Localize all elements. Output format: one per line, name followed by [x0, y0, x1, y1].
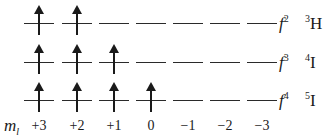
- orbital-line: [210, 62, 240, 63]
- ml-axis-label: ml: [4, 116, 19, 137]
- orbital-box: [247, 40, 277, 80]
- ml-value: −2: [210, 118, 240, 134]
- spin-up-arrow-icon: [149, 82, 153, 112]
- ml-axis: ml +3+2+10−1−2−3: [0, 116, 331, 138]
- config-label: f3: [279, 52, 289, 73]
- spin-up-arrow-icon: [37, 82, 41, 112]
- spin-up-arrow-icon: [75, 5, 79, 35]
- orbital-box: [210, 40, 240, 80]
- orbital-box: [136, 40, 166, 80]
- ml-value: +1: [99, 118, 129, 134]
- orbital-box: [247, 78, 277, 118]
- spin-up-arrow-icon: [112, 82, 116, 112]
- orbital-box: [99, 1, 129, 41]
- orbital-line: [210, 100, 240, 101]
- config-label: f4: [279, 90, 289, 111]
- row-f2: f2 3H: [0, 1, 331, 41]
- row-f3: f3 4I: [0, 40, 331, 80]
- ml-value: −1: [173, 118, 203, 134]
- orbital-box: [210, 78, 240, 118]
- spin-up-arrow-icon: [75, 82, 79, 112]
- ml-value: 0: [136, 118, 166, 134]
- orbital-line: [136, 62, 166, 63]
- spin-up-arrow-icon: [112, 44, 116, 74]
- orbital-line: [247, 23, 277, 24]
- orbital-box: [210, 1, 240, 41]
- orbital-box: [62, 40, 92, 80]
- orbital-line: [173, 23, 203, 24]
- orbital-line: [247, 100, 277, 101]
- orbital-box: [24, 1, 54, 41]
- orbital-box: [99, 78, 129, 118]
- orbital-line: [247, 62, 277, 63]
- orbital-box: [247, 1, 277, 41]
- row-f4: f4 5I: [0, 78, 331, 118]
- config-label: f2: [279, 13, 289, 34]
- orbital-box: [173, 78, 203, 118]
- spin-up-arrow-icon: [37, 5, 41, 35]
- orbital-box: [173, 1, 203, 41]
- term-symbol: 4I: [305, 52, 316, 73]
- ml-value: −3: [247, 118, 277, 134]
- spin-up-arrow-icon: [37, 44, 41, 74]
- orbital-box: [24, 40, 54, 80]
- orbital-line: [99, 23, 129, 24]
- term-symbol: 3H: [305, 13, 322, 34]
- orbital-box: [136, 78, 166, 118]
- orbital-line: [210, 23, 240, 24]
- orbital-box: [173, 40, 203, 80]
- ml-value: +2: [62, 118, 92, 134]
- orbital-line: [136, 23, 166, 24]
- orbital-box: [99, 40, 129, 80]
- orbital-line: [173, 100, 203, 101]
- orbital-box: [62, 1, 92, 41]
- term-symbol: 5I: [305, 90, 316, 111]
- orbital-box: [62, 78, 92, 118]
- orbital-box: [136, 1, 166, 41]
- orbital-line: [173, 62, 203, 63]
- orbital-box: [24, 78, 54, 118]
- spin-up-arrow-icon: [75, 44, 79, 74]
- ml-value: +3: [24, 118, 54, 134]
